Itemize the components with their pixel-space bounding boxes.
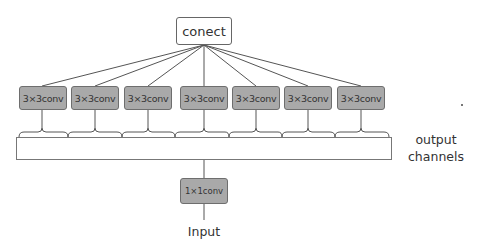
conv-node-6: 3×3conv: [284, 86, 332, 110]
conv-label: 3×3conv: [184, 93, 225, 104]
output-channels-bar: [16, 137, 392, 160]
conv-label: 3×3conv: [23, 93, 64, 104]
conv-node-1: 3×3conv: [19, 86, 67, 110]
output-channels-label: output channels: [405, 131, 467, 165]
stray-dot: [461, 104, 463, 106]
output-label-line1: output: [405, 131, 467, 148]
conect-label: conect: [182, 24, 226, 39]
output-label-line2: channels: [405, 148, 467, 165]
conect-node: conect: [176, 17, 232, 45]
conv-node-4: 3×3conv: [180, 86, 228, 110]
input-label: Input: [185, 223, 223, 240]
conv-node-5: 3×3conv: [232, 86, 280, 110]
conv-label: 3×3conv: [128, 93, 169, 104]
conv-node-3: 3×3conv: [124, 86, 172, 110]
conv-node-2: 3×3conv: [71, 86, 119, 110]
conv-label: 3×3conv: [341, 93, 382, 104]
conv-node-7: 3×3conv: [337, 86, 385, 110]
conv-label: 3×3conv: [236, 93, 277, 104]
conv-label: 3×3conv: [75, 93, 116, 104]
conv1x1-node: 1×1conv: [180, 178, 228, 204]
connection-lines: [0, 0, 478, 247]
conv1x1-label: 1×1conv: [185, 186, 223, 196]
conv-label: 3×3conv: [288, 93, 329, 104]
